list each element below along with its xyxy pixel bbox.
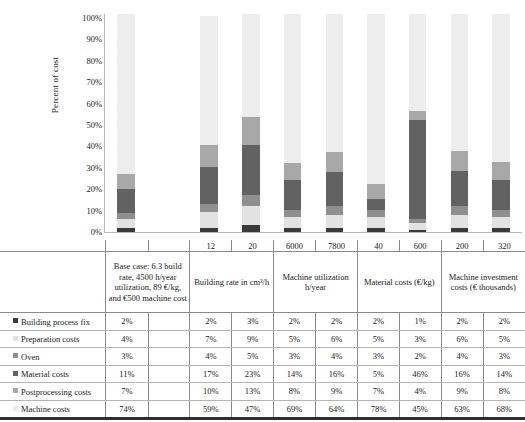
table-cell: 8% (273, 383, 315, 401)
y-axis-tick-label: 80% (62, 57, 102, 65)
table-cell: 4% (441, 348, 483, 366)
table-cell: 78% (358, 400, 400, 419)
bar-segment (326, 14, 344, 152)
bar-segment (284, 217, 302, 228)
bar-segment (367, 184, 385, 199)
x-axis-tick-label (148, 240, 190, 252)
group-header-cell: Building rate in cm³/h (190, 252, 274, 313)
table-cell: 68% (483, 400, 525, 419)
y-axis-tick-label: 50% (62, 121, 102, 129)
stacked-bar (242, 14, 260, 232)
table-cell: 2% (316, 313, 358, 331)
x-axis-tick-label (106, 240, 149, 252)
legend-swatch-icon (13, 388, 18, 393)
table-cell: 9% (316, 383, 358, 401)
table-cell: 11% (106, 365, 149, 383)
bar-segment (409, 14, 427, 111)
table-cell: 2% (106, 313, 149, 331)
y-axis-tick-label: 70% (62, 78, 102, 86)
bar-column (409, 14, 427, 232)
table-cell: 8% (483, 383, 525, 401)
stacked-bar (200, 14, 218, 232)
table-cell: 5% (232, 348, 274, 366)
stacked-bar (367, 14, 385, 232)
table-cell (148, 348, 190, 366)
table-cell: 4% (399, 383, 441, 401)
bar-segment (451, 215, 469, 228)
table-cell (148, 365, 190, 383)
group-header-cell: Machine investment costs (€ thousands) (441, 252, 525, 313)
bar-segment (242, 206, 260, 226)
chart-page: Percent of cost 0%10%20%30%40%50%60%70%8… (0, 0, 525, 422)
bar-segment (284, 180, 302, 210)
bar-segment (284, 14, 302, 163)
bar-segment (200, 228, 218, 232)
table-cell: 16% (441, 365, 483, 383)
legend-swatch-icon (13, 318, 18, 323)
bar-segment (367, 228, 385, 232)
table-cell: 69% (273, 400, 315, 419)
legend-label: Machine costs (21, 404, 70, 414)
bar-segment (242, 117, 260, 145)
bar-segment (242, 195, 260, 206)
table-cell: 9% (232, 330, 274, 348)
bar-segment (117, 174, 135, 189)
legend-label: Preparation costs (21, 334, 79, 344)
table-cell: 14% (273, 365, 315, 383)
bar-segment (492, 217, 510, 228)
legend-entry: Building process fix (0, 313, 106, 331)
y-axis-tick-label: 40% (62, 142, 102, 150)
table-corner-cell (0, 252, 106, 313)
table-row: Machine costs74%59%47%69%64%78%45%63%68% (0, 400, 525, 419)
stacked-bar (326, 14, 344, 232)
table-cell: 1% (399, 313, 441, 331)
bar-segment (200, 204, 218, 213)
bar-segment (451, 206, 469, 215)
table-cell: 7% (106, 383, 149, 401)
table-cell (148, 400, 190, 419)
bar-segment (409, 230, 427, 232)
bar-segment (242, 14, 260, 116)
bar-segment (367, 199, 385, 210)
legend-swatch-icon (13, 353, 18, 358)
y-axis-tick-label: 0% (62, 228, 102, 236)
bar-segment (326, 152, 344, 171)
table-cell: 23% (232, 365, 274, 383)
table-row: Oven3%4%5%3%4%3%2%4%3% (0, 348, 525, 366)
x-axis-tick-label: 200 (441, 240, 483, 252)
bar-column (284, 14, 302, 232)
table-cell: 64% (316, 400, 358, 419)
bar-segment (409, 120, 427, 219)
legend-label: Postprocessing costs (21, 387, 91, 397)
table-cell: 4% (190, 348, 232, 366)
table-cell: 3% (399, 330, 441, 348)
table-cell: 6% (316, 330, 358, 348)
legend-entry: Material costs (0, 365, 106, 383)
table-cell: 3% (232, 313, 274, 331)
group-header-row: Base case: 6.3 build rate, 4500 h/year u… (0, 252, 525, 313)
y-axis-tick-labels: 0%10%20%30%40%50%60%70%80%90%100% (62, 10, 102, 232)
legend-entry: Preparation costs (0, 330, 106, 348)
y-axis-tick-label: 10% (62, 207, 102, 215)
x-axis-tick-label: 40 (358, 240, 400, 252)
bar-column (492, 14, 510, 232)
table-cell: 16% (316, 365, 358, 383)
legend-label: Material costs (21, 369, 69, 379)
data-table: 12206000780040600200320Base case: 6.3 bu… (0, 240, 525, 420)
legend-swatch-icon (13, 371, 18, 376)
bar-segment (284, 163, 302, 180)
legend-label: Oven (21, 352, 39, 362)
stacked-bar (117, 14, 135, 232)
bar-segment (117, 14, 135, 174)
bar-segment (200, 16, 218, 145)
table-cell: 17% (190, 365, 232, 383)
stacked-bar (284, 14, 302, 232)
table-cell: 6% (441, 330, 483, 348)
tick-label-row: 12206000780040600200320 (0, 240, 525, 252)
bar-segment (200, 167, 218, 204)
table-row: Building process fix2%2%3%2%2%2%1%2%2% (0, 313, 525, 331)
bar-column (200, 14, 218, 232)
legend-label: Building process fix (21, 317, 90, 327)
table-cell: 3% (483, 348, 525, 366)
legend-entry: Oven (0, 348, 106, 366)
